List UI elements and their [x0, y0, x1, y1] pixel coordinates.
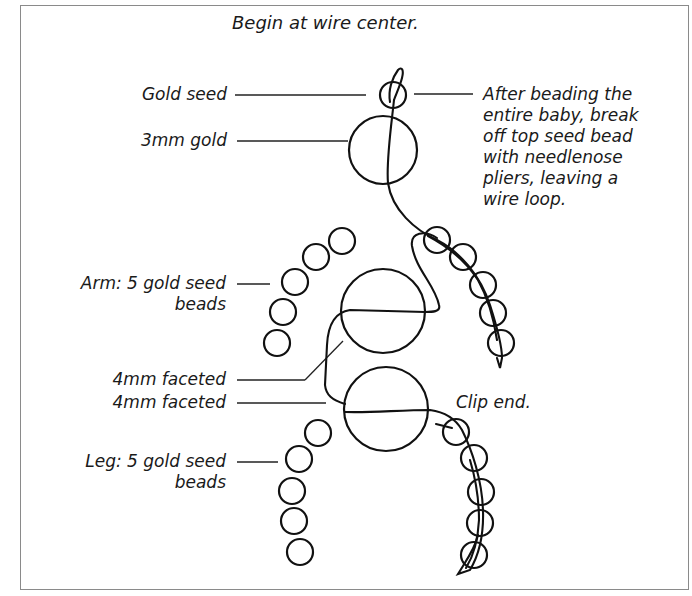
label-4mm-faceted-1: 4mm faceted	[113, 369, 226, 390]
bead-left-arm-seed	[270, 299, 296, 325]
bead-left-leg-seed	[305, 420, 331, 446]
instruction-note: After beading the entire baby, break off…	[483, 84, 639, 210]
note-line: with needlenose	[483, 147, 639, 168]
bead-head-3mm-gold	[349, 116, 417, 184]
label-arm: Arm: 5 gold seed beads	[81, 273, 226, 315]
bead-right-leg-seed	[467, 510, 493, 536]
bead-left-arm-seed	[329, 228, 355, 254]
wire	[325, 68, 502, 574]
label-clip-end: Clip end.	[456, 392, 531, 413]
bead-right-arm-seed	[470, 272, 496, 298]
note-line: pliers, leaving a	[483, 168, 639, 189]
note-line: entire baby, break	[483, 105, 639, 126]
label-4mm-faceted-2: 4mm faceted	[113, 392, 226, 413]
note-line: After beading the	[483, 84, 639, 105]
label-3mm-gold: 3mm gold	[141, 130, 227, 151]
bead-left-leg-seed	[281, 508, 307, 534]
bead-left-leg-seed	[286, 446, 312, 472]
diagram-title: Begin at wire center.	[232, 12, 419, 33]
label-gold-seed: Gold seed	[142, 84, 227, 105]
bead-body-4mm-faceted-lower	[344, 367, 428, 451]
bead-left-leg-seed	[287, 539, 313, 565]
note-line: wire loop.	[483, 189, 639, 210]
bead-left-arm-seed	[282, 269, 308, 295]
label-leg-line1: Leg: 5 gold seed	[85, 451, 226, 472]
bead-left-arm-seed	[303, 244, 329, 270]
label-arm-line1: Arm: 5 gold seed	[81, 273, 226, 294]
bead-left-leg-seed	[279, 478, 305, 504]
label-leg: Leg: 5 gold seed beads	[85, 451, 226, 493]
bead-left-arm-seed	[264, 330, 290, 356]
bead-right-arm-seed	[450, 244, 476, 270]
note-line: off top seed bead	[483, 126, 639, 147]
label-arm-line2: beads	[81, 294, 226, 315]
label-leg-line2: beads	[85, 472, 226, 493]
leader-lines	[235, 94, 473, 462]
